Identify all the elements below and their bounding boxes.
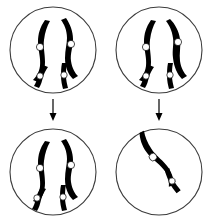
cell-membrane-bottom-right	[116, 129, 202, 215]
diagram-canvas	[0, 0, 212, 221]
cell-bottom-left	[10, 129, 96, 215]
centromere	[36, 43, 43, 50]
centromere	[167, 72, 173, 78]
centromere	[67, 161, 74, 168]
centromere	[60, 194, 66, 200]
centromere	[142, 43, 149, 50]
centromere	[36, 164, 43, 171]
arrow-left-head	[50, 113, 57, 121]
centromere	[61, 72, 67, 78]
cell-bottom-right	[116, 129, 202, 215]
centromere	[174, 38, 181, 45]
centromere	[143, 73, 149, 79]
arrow-left	[50, 99, 57, 121]
centromere	[67, 40, 74, 47]
centromere	[37, 73, 43, 79]
arrow-right	[156, 99, 163, 121]
cell-membrane-bottom-left	[10, 129, 96, 215]
cell-membrane-top-left	[10, 7, 96, 93]
cell-membrane-top-right	[116, 7, 202, 93]
cell-top-left	[10, 7, 96, 93]
arrow-right-head	[156, 113, 163, 121]
cell-division-diagram	[0, 0, 212, 221]
cell-top-right	[116, 7, 202, 93]
centromere	[34, 195, 40, 201]
